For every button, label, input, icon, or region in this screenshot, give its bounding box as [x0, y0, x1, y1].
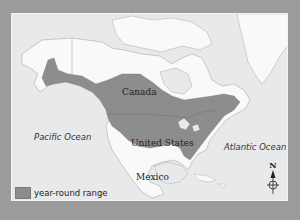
- legend-label-year-round: year-round range: [34, 188, 108, 198]
- label-united-states: United States: [131, 138, 194, 148]
- caribbean-islands: [194, 174, 226, 188]
- map-legend: year-round range: [15, 187, 108, 199]
- map-frame: Canada United States Mexico Pacific Ocea…: [11, 13, 288, 201]
- label-mexico: Mexico: [136, 172, 169, 182]
- arctic-islands: [112, 16, 212, 52]
- label-pacific-ocean: Pacific Ocean: [34, 132, 91, 142]
- north-label: N: [265, 160, 281, 170]
- greenland-land: [237, 14, 288, 84]
- north-arrow: N: [265, 160, 281, 194]
- label-canada: Canada: [122, 87, 157, 97]
- legend-swatch-year-round: [15, 187, 31, 199]
- label-atlantic-ocean: Atlantic Ocean: [224, 142, 286, 152]
- compass-rose-icon: [266, 170, 280, 194]
